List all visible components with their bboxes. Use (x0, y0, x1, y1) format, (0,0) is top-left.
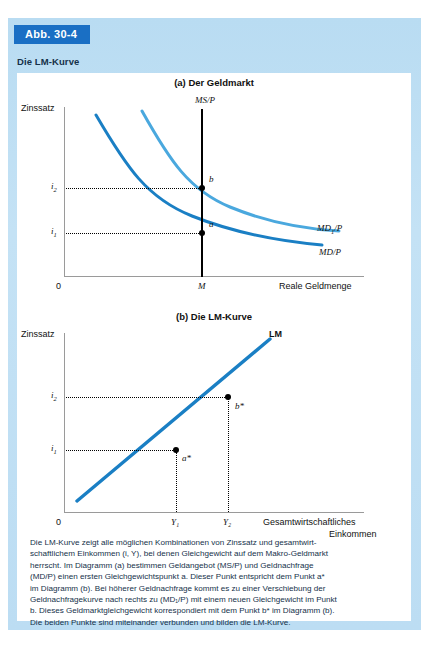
caption-line-5: im Diagramm (b). Bei höherer Geldnachfra… (30, 583, 404, 594)
curve-md-p-label: MD/P (319, 247, 341, 257)
curve-ms-p (201, 109, 203, 277)
chart-money-market: (a) Der Geldmarkt Zinssatz Reale Geldmen… (17, 73, 411, 303)
chart-b-point-b-star-label: b* (235, 401, 244, 411)
caption-line-8: Die beiden Punkte sind miteinander verbu… (30, 617, 404, 628)
lm-segment (77, 339, 270, 501)
chart-b-xtick-y2: Y₂ (223, 517, 231, 527)
figure-caption: Die LM-Kurve zeigt alle möglichen Kombin… (30, 537, 404, 628)
chart-a-point-a (199, 230, 205, 236)
chart-b-dashed-y1 (176, 452, 177, 512)
figure-subtitle: Die LM-Kurve (17, 56, 79, 67)
chart-a-xtick-m: M (198, 281, 206, 291)
chart-b-point-a-star (173, 447, 179, 453)
chart-b-point-b-star (225, 394, 231, 400)
caption-line-7: b. Dieses Geldmarktgleichgewicht korresp… (30, 605, 404, 616)
chart-b-xtick-y1: Y₁ (171, 517, 179, 527)
chart-b-point-a-star-label: a* (182, 453, 191, 463)
chart-a-ytick-i2: i2 (51, 181, 57, 193)
chart-b-dashed-i1 (66, 450, 177, 451)
curve-md1-p-label: MD1/P (317, 223, 342, 235)
chart-b-dashed-y2 (228, 399, 229, 512)
chart-a-point-b (199, 185, 205, 191)
figure-number-badge: Abb. 30-4 (14, 25, 90, 44)
caption-line-4: (MD/P) einen ersten Gleichgewichtspunkt … (30, 571, 404, 582)
chart-b-ytick-i1: i1 (51, 443, 57, 455)
caption-line-6: Geldnachfragekurve nach rechts zu (MD₁/P… (30, 594, 404, 605)
curve-md1-p (142, 111, 339, 231)
chart-b-ytick-i2: i2 (51, 390, 57, 402)
caption-line-3: herrscht. Im Diagramm (a) bestimmen Geld… (30, 560, 404, 571)
chart-b-dashed-i2 (66, 397, 229, 398)
chart-a-point-a-label: a (209, 219, 214, 229)
chart-a-point-b-label: b (209, 174, 214, 184)
caption-line-1: Die LM-Kurve zeigt alle möglichen Kombin… (30, 537, 404, 548)
caption-line-2: schaftlichem Einkommen (i, Y), bei denen… (30, 548, 404, 559)
curve-lm-label: LM (269, 329, 282, 339)
chart-a-dashed-i1 (66, 233, 203, 234)
chart-a-ytick-i1: i1 (51, 226, 57, 238)
curve-ms-p-label: MS/P (195, 95, 215, 105)
chart-a-dashed-i2 (66, 188, 203, 189)
figure-panel: Abb. 30-4 Die LM-Kurve (a) Der Geldmarkt… (8, 18, 421, 630)
